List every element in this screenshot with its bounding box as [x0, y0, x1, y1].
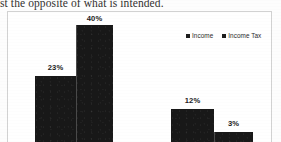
legend-swatch-icon [222, 34, 226, 38]
bar-income-tax-1 [76, 25, 113, 142]
bar-label-40: 40% [76, 14, 113, 23]
bar-label-12: 12% [171, 96, 214, 105]
scanned-page: st the opposite of what is intended. Inc… [0, 0, 281, 142]
bar-income-tax-2 [214, 132, 253, 142]
chart-plot-area: Income Income Tax 23% 40% 12% 3% [8, 12, 271, 142]
document-text-line: st the opposite of what is intended. [0, 0, 281, 10]
chart-legend: Income Income Tax [186, 32, 261, 39]
legend-item-income: Income [186, 32, 213, 39]
bar-label-3: 3% [214, 119, 253, 128]
bar-income-2 [171, 109, 214, 142]
bar-label-23: 23% [35, 63, 76, 72]
legend-label-income-tax: Income Tax [228, 32, 261, 39]
legend-item-income-tax: Income Tax [222, 32, 261, 39]
bar-income-1 [35, 76, 76, 142]
document-text: st the opposite of what is intended. [0, 0, 281, 10]
legend-label-income: Income [192, 32, 213, 39]
bar-chart: Income Income Tax 23% 40% 12% 3% [7, 11, 272, 142]
legend-swatch-icon [186, 34, 190, 38]
